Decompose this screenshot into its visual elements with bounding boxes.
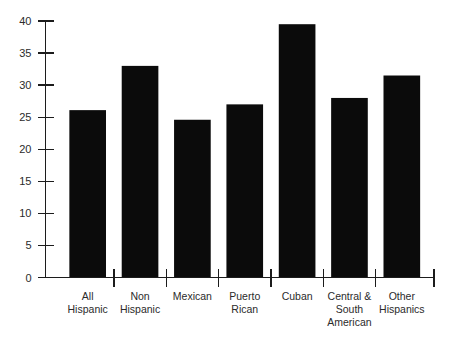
y-axis-tick-label: 25 — [19, 111, 31, 123]
x-axis-category-label: South — [336, 303, 364, 315]
x-axis-category-label: American — [327, 316, 372, 328]
bar — [383, 76, 420, 278]
y-axis-tick-label: 0 — [25, 272, 31, 284]
x-axis-category-label: Non — [130, 290, 149, 302]
y-axis-tick-label: 30 — [19, 79, 31, 91]
bar — [122, 66, 159, 278]
x-axis-category-label: Hispanics — [379, 303, 425, 315]
y-axis-tick-label: 35 — [19, 47, 31, 59]
x-axis-category-label: Hispanic — [68, 303, 108, 315]
x-axis-category-label: Mexican — [173, 290, 212, 302]
x-axis-category-label: Central & — [328, 290, 372, 302]
y-axis-tick-label: 40 — [19, 15, 31, 27]
bar — [69, 110, 106, 277]
x-axis-category-label: Puerto — [229, 290, 260, 302]
x-axis-category-label: Rican — [231, 303, 258, 315]
bar — [226, 104, 263, 277]
y-axis-tick-label: 10 — [19, 207, 31, 219]
y-axis-tick-label: 5 — [25, 239, 31, 251]
y-axis-tick-label: 15 — [19, 175, 31, 187]
bar — [279, 24, 316, 277]
bar — [331, 98, 368, 278]
bar — [174, 120, 211, 278]
x-axis-category-label: Other — [389, 290, 416, 302]
y-axis-label-group: 0510152025303540 — [19, 15, 31, 284]
bar-series — [69, 24, 420, 277]
y-axis-tick-label: 20 — [19, 143, 31, 155]
x-axis-category-label: Hispanic — [120, 303, 160, 315]
bar-chart: 0510152025303540 AllHispanicNonHispanicM… — [0, 0, 449, 344]
x-axis-category-label: All — [82, 290, 94, 302]
chart-canvas: 0510152025303540 AllHispanicNonHispanicM… — [0, 0, 449, 344]
x-axis-label-group: AllHispanicNonHispanicMexicanPuertoRican… — [68, 290, 425, 328]
x-axis-category-label: Cuban — [282, 290, 313, 302]
